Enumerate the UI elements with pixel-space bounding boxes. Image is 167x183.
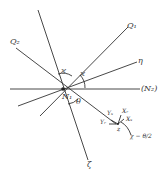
- label-n1: N₁: [62, 93, 72, 101]
- label-zeta: ζ: [87, 161, 91, 169]
- zeta-axis-line: [38, 10, 88, 160]
- label-theta: θ: [76, 98, 81, 106]
- label-kappa-left: ϰ: [61, 67, 66, 75]
- n1-center-point: [61, 87, 65, 91]
- label-z: z: [117, 126, 120, 132]
- q2-line: [16, 48, 116, 124]
- label-eta: η: [138, 57, 143, 65]
- label-xs: Xₛ: [126, 116, 132, 122]
- label-xr: Xᵣ: [122, 108, 128, 114]
- label-n2: (N₂): [141, 85, 157, 93]
- label-chi-formula: χ − θ/2: [130, 133, 152, 139]
- diagram-canvas: Q₁ Q₂ η (N₂) N₁ ζ ϰ ϰ θ Yₛ Xᵣ Xₛ Yᵣ z χ …: [0, 0, 167, 183]
- label-ys: Yₛ: [107, 110, 113, 116]
- label-q1: Q₁: [127, 22, 137, 30]
- label-yr: Yᵣ: [100, 119, 106, 125]
- label-kappa-right: ϰ: [80, 70, 85, 78]
- label-q2: Q₂: [10, 38, 20, 46]
